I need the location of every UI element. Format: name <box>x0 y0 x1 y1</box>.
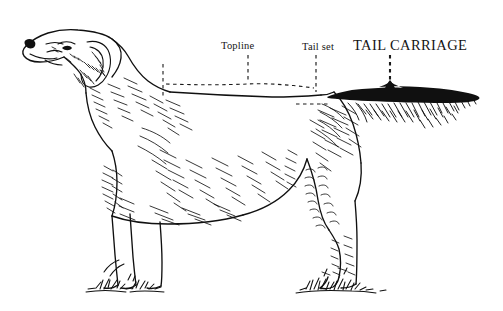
head-detail <box>25 39 111 87</box>
dog-anatomy-figure: Topline Tail set TAIL CARRIAGE <box>0 0 503 311</box>
label-tail-carriage: TAIL CARRIAGE <box>353 37 467 54</box>
leader-lines <box>248 55 390 92</box>
label-tail-set: Tail set <box>302 41 334 52</box>
topline-guides <box>163 64 329 104</box>
dog-outline <box>23 30 361 289</box>
label-topline: Topline <box>221 40 254 51</box>
tail-silhouette <box>327 80 480 103</box>
fur-shading <box>52 47 361 275</box>
topline-dashed-line <box>166 84 314 88</box>
